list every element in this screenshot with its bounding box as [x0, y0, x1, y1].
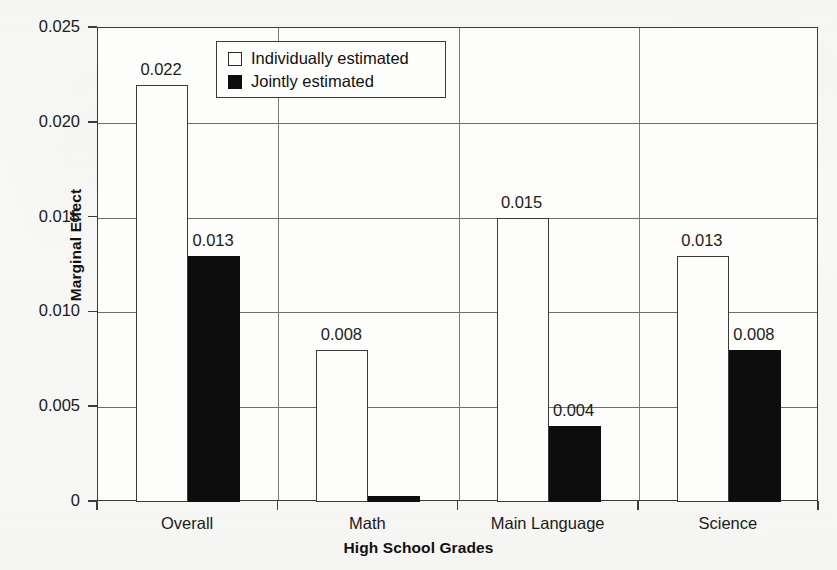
y-tick-label: 0 — [0, 491, 80, 510]
y-tick-label: 0.005 — [0, 396, 80, 415]
y-tick-mark — [88, 311, 97, 313]
y-tick-mark — [88, 216, 97, 218]
bar-science-individually-estimated — [677, 256, 729, 503]
legend-label: Jointly estimated — [251, 73, 374, 90]
bar-value-label: 0.013 — [662, 231, 742, 250]
y-tick-mark — [88, 405, 97, 407]
legend-label: Individually estimated — [251, 50, 409, 67]
y-tick-label: 0.010 — [0, 301, 80, 320]
chart-legend: Individually estimated Jointly estimated — [216, 41, 446, 98]
bar-value-label: 0.008 — [714, 325, 794, 344]
category-separator — [639, 28, 640, 500]
gridline — [98, 218, 817, 219]
bar-value-label: 0.015 — [482, 193, 562, 212]
y-tick-label: 0.020 — [0, 112, 80, 131]
x-category-label-math: Math — [267, 514, 467, 533]
x-category-label-science: Science — [628, 514, 828, 533]
bar-math-jointly-estimated — [368, 496, 420, 502]
gridline — [98, 123, 817, 124]
bar-main-language-jointly-estimated — [549, 426, 601, 502]
bar-value-label: 0.008 — [301, 325, 381, 344]
bar-overall-jointly-estimated — [188, 256, 240, 503]
plot-area — [97, 27, 818, 501]
bar-main-language-individually-estimated — [497, 218, 549, 502]
bar-value-label: 0.004 — [534, 401, 614, 420]
category-separator — [278, 28, 279, 500]
y-tick-label: 0.015 — [0, 207, 80, 226]
bar-value-label: 0.013 — [173, 231, 253, 250]
bar-value-label: 0.022 — [121, 60, 201, 79]
legend-item-jointly-estimated: Jointly estimated — [228, 70, 445, 93]
legend-swatch-black-square — [228, 75, 242, 89]
x-axis-title: High School Grades — [0, 539, 837, 557]
category-separator — [459, 28, 460, 500]
x-tick-mark — [277, 501, 279, 510]
x-tick-mark — [637, 501, 639, 510]
y-tick-label: 0.025 — [0, 17, 80, 36]
y-tick-mark — [88, 121, 97, 123]
x-tick-mark — [457, 501, 459, 510]
legend-item-individually-estimated: Individually estimated — [228, 47, 445, 70]
y-tick-mark — [88, 26, 97, 28]
bar-science-jointly-estimated — [729, 350, 781, 502]
bar-overall-individually-estimated — [136, 85, 188, 502]
x-tick-mark — [817, 501, 819, 510]
x-category-label-overall: Overall — [87, 514, 287, 533]
legend-swatch-white-square — [228, 52, 242, 66]
bar-math-individually-estimated — [316, 350, 368, 502]
chart-figure: Marginal Effect 00.0050.0100.0150.0200.0… — [0, 0, 837, 570]
x-category-label-main-language: Main Language — [448, 514, 648, 533]
x-tick-mark — [96, 501, 98, 510]
